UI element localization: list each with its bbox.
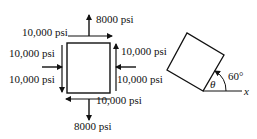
label-normal-y-top: 8000 psi <box>96 13 134 25</box>
label-normal-x-left: 10,000 psi <box>9 47 55 59</box>
label-shear-left: 10,000 psi <box>9 73 55 85</box>
label-shear-bottom: 10,000 psi <box>96 94 142 106</box>
label-normal-y-bottom: 8000 psi <box>74 120 112 132</box>
label-normal-x-right: 10,000 psi <box>117 73 163 85</box>
angle-label: 60° <box>228 70 243 82</box>
rotated-element-square <box>167 33 224 91</box>
x-axis-label: x <box>243 85 249 97</box>
stress-element-square <box>67 43 110 93</box>
label-shear-right: 10,000 psi <box>121 45 167 57</box>
theta-label: θ <box>210 78 216 90</box>
stress-diagram: 8000 psi 10,000 psi 10,000 psi 10,000 ps… <box>0 0 257 139</box>
angle-arc <box>215 71 226 91</box>
label-shear-top: 10,000 psi <box>22 26 68 38</box>
